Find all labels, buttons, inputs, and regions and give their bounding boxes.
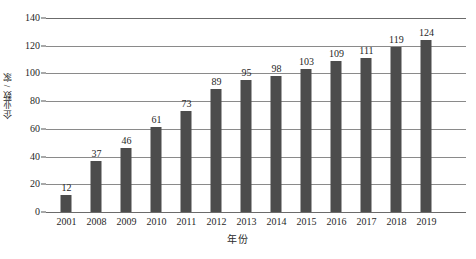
x-tick-label: 2017: [349, 216, 383, 228]
x-tick-label: 2013: [229, 216, 263, 228]
bar: [181, 111, 192, 212]
bar-group: 124: [411, 18, 441, 212]
y-tick-label: 20: [14, 179, 40, 189]
bar: [331, 61, 342, 212]
x-tick-label: 2011: [169, 216, 203, 228]
x-tick-label: 2019: [409, 216, 443, 228]
bar-value-label: 46: [121, 136, 131, 146]
x-tick-label: 2012: [199, 216, 233, 228]
bar-value-label: 109: [329, 49, 344, 59]
bar-value-label: 95: [241, 68, 251, 78]
y-axis-tick-labels: 020406080100120140: [14, 0, 40, 259]
y-tick-label: 0: [14, 207, 40, 217]
bar-group: 95: [231, 18, 261, 212]
bar-group: 119: [381, 18, 411, 212]
x-tick-label: 2001: [49, 216, 83, 228]
y-tick-label: 60: [14, 124, 40, 134]
axis-baseline: [46, 212, 466, 213]
bar-group: 109: [321, 18, 351, 212]
y-tick-label: 80: [14, 96, 40, 106]
x-axis-title: 年份: [0, 234, 476, 246]
x-tick-label: 2009: [109, 216, 143, 228]
bar-group: 12: [51, 18, 81, 212]
bar-value-label: 73: [181, 99, 191, 109]
bar-value-label: 119: [389, 35, 404, 45]
bar-value-label: 103: [299, 57, 314, 67]
bar: [271, 76, 282, 212]
bar-value-label: 61: [151, 115, 161, 125]
y-tick-label: 100: [14, 68, 40, 78]
bar-group: 37: [81, 18, 111, 212]
plot-area: 1237466173899598103109111119124: [46, 18, 466, 212]
bar-value-label: 89: [211, 77, 221, 87]
bar: [241, 80, 252, 212]
bar: [421, 40, 432, 212]
bar-group: 98: [261, 18, 291, 212]
y-tick-label: 120: [14, 41, 40, 51]
bar: [391, 47, 402, 212]
x-tick-label: 2014: [259, 216, 293, 228]
x-tick-label: 2018: [379, 216, 413, 228]
x-tick-label: 2015: [289, 216, 323, 228]
bar-group: 103: [291, 18, 321, 212]
bar-value-label: 98: [271, 64, 281, 74]
bar-group: 89: [201, 18, 231, 212]
bar: [61, 195, 72, 212]
bar: [91, 161, 102, 212]
bar: [301, 69, 312, 212]
bar-group: 111: [351, 18, 381, 212]
y-tick-label: 140: [14, 13, 40, 23]
x-tick-label: 2016: [319, 216, 353, 228]
x-axis-tick-labels: 2001200820092010201120122013201420152016…: [46, 216, 466, 230]
bar: [211, 89, 222, 212]
bar-value-label: 37: [91, 149, 101, 159]
bar: [151, 127, 162, 212]
bar-chart: 企业数 / 家 020406080100120140 1237466173899…: [0, 0, 476, 259]
x-tick-label: 2010: [139, 216, 173, 228]
bar-group: 61: [141, 18, 171, 212]
bar-group: 46: [111, 18, 141, 212]
bar: [121, 148, 132, 212]
bar: [361, 58, 372, 212]
bar-value-label: 111: [359, 46, 373, 56]
bar-group: 73: [171, 18, 201, 212]
bar-value-label: 124: [419, 28, 434, 38]
bar-value-label: 12: [61, 183, 71, 193]
y-tick-label: 40: [14, 152, 40, 162]
x-tick-label: 2008: [79, 216, 113, 228]
